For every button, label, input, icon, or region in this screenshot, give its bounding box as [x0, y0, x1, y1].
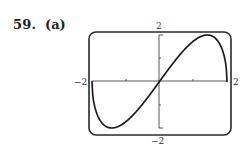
y-min-label: −2 — [151, 136, 164, 146]
function-curve — [92, 35, 227, 128]
y-max-label: 2 — [156, 21, 162, 31]
x-max-label: 2 — [233, 77, 239, 87]
viewing-rectangle-frame — [89, 32, 231, 135]
x-min-label: −2 — [74, 77, 87, 87]
function-graph: 2 −2 −2 2 — [0, 0, 248, 146]
